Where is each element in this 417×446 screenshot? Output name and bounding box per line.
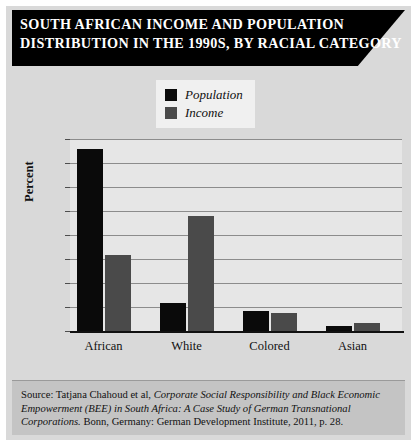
bar-population-african: [77, 149, 103, 331]
bar-group: [243, 139, 297, 331]
y-axis-tick: [65, 211, 70, 212]
bar-income-colored: [271, 313, 297, 331]
chart-plot-wrapper: Percent 01020304050607080AfricanWhiteCol…: [6, 6, 411, 386]
x-axis-line: [70, 331, 404, 333]
y-axis-tick: [65, 163, 70, 164]
bar-group: [326, 139, 380, 331]
source-prefix: Source: Tatjana Chahoud et al,: [21, 389, 154, 400]
x-axis-tick-label: African: [84, 339, 122, 354]
bar-population-white: [160, 303, 186, 331]
bar-group: [160, 139, 214, 331]
y-axis-tick: [65, 187, 70, 188]
y-axis-tick: [65, 307, 70, 308]
bar-income-white: [188, 216, 214, 331]
y-axis-tick: [65, 139, 70, 140]
bar-income-african: [105, 255, 131, 331]
source-caption-box: Source: Tatjana Chahoud et al, Corporate…: [12, 380, 405, 435]
bar-income-asian: [354, 323, 380, 331]
y-axis-tick: [65, 235, 70, 236]
y-axis-label: Percent: [22, 161, 37, 202]
figure-container: SOUTH AFRICAN INCOME AND POPULATION DIST…: [0, 0, 417, 446]
bar-population-colored: [243, 311, 269, 331]
bar-group: [77, 139, 131, 331]
figure-inner: SOUTH AFRICAN INCOME AND POPULATION DIST…: [6, 6, 411, 440]
x-axis-tick-label: White: [171, 339, 202, 354]
y-axis-tick: [65, 283, 70, 284]
x-axis-tick-label: Asian: [338, 339, 367, 354]
source-caption: Source: Tatjana Chahoud et al, Corporate…: [21, 388, 396, 428]
plot-area: [70, 139, 402, 331]
y-axis-tick: [65, 259, 70, 260]
x-axis-tick-label: Colored: [249, 339, 289, 354]
source-suffix: Bonn, Germany: German Development Instit…: [81, 416, 343, 427]
